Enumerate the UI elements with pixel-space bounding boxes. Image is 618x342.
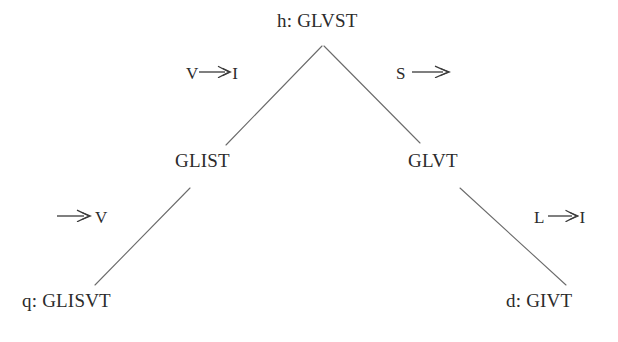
- edge-root-left: [226, 46, 322, 145]
- long-rightwards-arrow-icon: [56, 207, 92, 227]
- edge-label-target-symbol: I: [232, 65, 238, 82]
- node-left-child: GLIST: [175, 150, 230, 172]
- derivation-tree-diagram: h: GLVST GLIST GLVT q: GLISVT d: GIVT V …: [0, 0, 618, 342]
- edge-label-target-symbol: V: [95, 209, 107, 226]
- edge-label-root-right: S: [396, 63, 451, 83]
- edge-label-left-leaf: V: [56, 207, 107, 227]
- edge-right-leaf: [460, 188, 566, 285]
- node-root: h: GLVST: [277, 10, 358, 32]
- long-rightwards-arrow-icon: [411, 63, 451, 83]
- node-right-child: GLVT: [408, 150, 458, 172]
- edge-label-source-symbol: S: [396, 65, 405, 82]
- node-leaf-left: q: GLISVT: [22, 290, 111, 312]
- edge-left-leaf: [95, 188, 190, 285]
- edge-label-source-symbol: V: [186, 65, 198, 82]
- long-rightwards-arrow-icon: [547, 207, 579, 227]
- node-leaf-right: d: GIVT: [506, 290, 572, 312]
- long-rightwards-arrow-icon: [198, 63, 232, 83]
- edge-label-root-left: V I: [186, 63, 238, 83]
- edge-label-source-symbol: L: [534, 209, 544, 226]
- edge-label-target-symbol: I: [579, 209, 585, 226]
- edge-label-right-leaf: L I: [534, 207, 585, 227]
- edge-root-right: [324, 46, 420, 143]
